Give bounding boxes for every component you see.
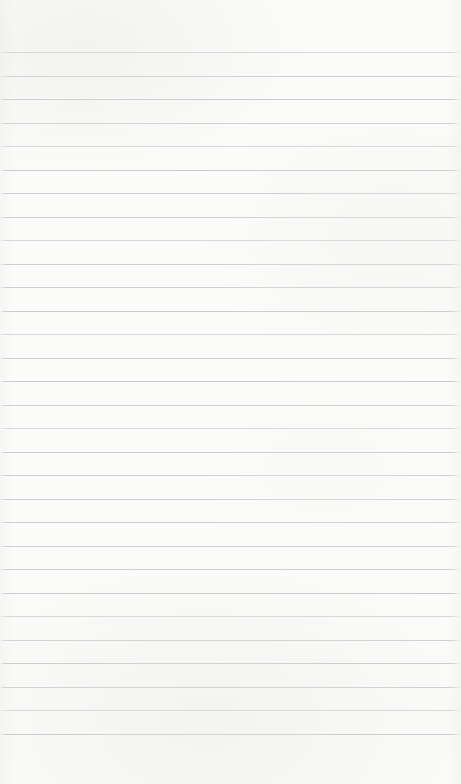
ruled-line bbox=[0, 334, 461, 335]
ruled-line bbox=[0, 428, 461, 429]
ruled-line bbox=[0, 569, 461, 570]
ruled-line bbox=[0, 710, 461, 711]
ruled-line bbox=[0, 687, 461, 688]
ruled-line bbox=[0, 193, 461, 194]
ruled-line bbox=[0, 405, 461, 406]
ruled-line bbox=[0, 358, 461, 359]
ruled-line bbox=[0, 123, 461, 124]
ruled-line bbox=[0, 499, 461, 500]
ruled-line bbox=[0, 734, 461, 735]
ruled-line bbox=[0, 240, 461, 241]
ruled-line bbox=[0, 311, 461, 312]
ruled-line bbox=[0, 381, 461, 382]
ruled-line bbox=[0, 452, 461, 453]
ruled-line bbox=[0, 217, 461, 218]
ruled-line bbox=[0, 52, 461, 53]
ruled-line bbox=[0, 146, 461, 147]
ruled-line bbox=[0, 663, 461, 664]
notebook-page bbox=[0, 0, 461, 784]
ruled-line bbox=[0, 170, 461, 171]
ruled-line bbox=[0, 99, 461, 100]
ruled-line bbox=[0, 616, 461, 617]
ruled-lines-layer bbox=[0, 0, 461, 784]
ruled-line bbox=[0, 522, 461, 523]
ruled-line bbox=[0, 640, 461, 641]
ruled-line bbox=[0, 593, 461, 594]
ruled-line bbox=[0, 546, 461, 547]
ruled-line bbox=[0, 475, 461, 476]
ruled-line bbox=[0, 76, 461, 77]
ruled-line bbox=[0, 287, 461, 288]
ruled-line bbox=[0, 264, 461, 265]
